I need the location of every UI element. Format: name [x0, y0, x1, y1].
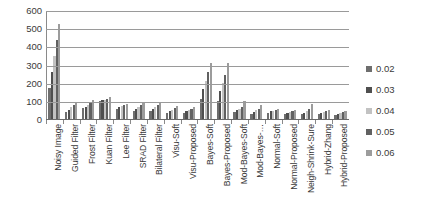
legend-item[interactable]: 0.05: [366, 121, 424, 142]
legend-swatch-icon: [366, 108, 372, 114]
bar[interactable]: [75, 102, 77, 119]
x-axis-label: Hybrid-Proposed: [340, 124, 349, 187]
x-axis-label: Frost Filter: [88, 124, 97, 164]
legend-swatch-icon: [366, 66, 372, 72]
bar[interactable]: [260, 105, 262, 119]
x-axis-label: Kuan Filter: [105, 124, 114, 164]
x-axis-label: Hybrid-Zhang: [324, 124, 333, 175]
x-label-cell: Visu-Proposed: [181, 124, 198, 216]
x-label-cell: Guided Filter: [63, 124, 80, 216]
x-axis-label: Visu-Soft: [172, 124, 181, 158]
bar[interactable]: [311, 104, 313, 119]
x-axis-label: Mod-Bayes-Soft: [240, 124, 249, 184]
bar-chart: 6005004003002001000 Noisy ImageGuided Fi…: [0, 0, 425, 216]
x-label-cell: Frost Filter: [80, 124, 97, 216]
x-axis-label: Normal-Proposed: [290, 124, 299, 190]
y-tick-label: 400: [26, 43, 42, 53]
x-label-cell: Noisy Image: [46, 124, 63, 216]
legend-item[interactable]: 0.06: [366, 142, 424, 163]
x-label-cell: Kuan Filter: [96, 124, 113, 216]
gridline: [46, 47, 349, 48]
bar[interactable]: [344, 111, 346, 119]
legend-swatch-icon: [366, 150, 372, 156]
bar[interactable]: [176, 106, 178, 119]
bar[interactable]: [58, 24, 60, 119]
x-axis-labels: Noisy ImageGuided FilterFrost FilterKuan…: [46, 124, 349, 216]
bar[interactable]: [227, 63, 229, 119]
x-label-cell: SRAD Filter: [130, 124, 147, 216]
y-axis: 6005004003002001000: [0, 0, 46, 216]
y-tick-label: 100: [26, 97, 42, 107]
x-label-cell: Bayes-Proposed: [214, 124, 231, 216]
x-label-cell: Mod-Bayes-…: [248, 124, 265, 216]
x-axis-label: Neigh-Shrink-Sure: [307, 124, 316, 193]
x-label-cell: Hybrid-Proposed: [332, 124, 349, 216]
x-axis-label: Lee Filter: [122, 124, 131, 159]
y-tick-label: 200: [26, 79, 42, 89]
y-tick-label: 0: [37, 115, 42, 125]
x-label-cell: Bilateral Filter: [147, 124, 164, 216]
legend-item[interactable]: 0.03: [366, 79, 424, 100]
y-tick-label: 600: [26, 6, 42, 16]
x-label-cell: Hybrid-Zhang: [315, 124, 332, 216]
gridline: [46, 29, 349, 30]
x-label-cell: Bayes-Soft: [197, 124, 214, 216]
legend-label: 0.05: [376, 127, 395, 137]
plot-area: [46, 11, 349, 120]
legend-item[interactable]: 0.02: [366, 58, 424, 79]
bar[interactable]: [277, 109, 279, 119]
legend-item[interactable]: 0.04: [366, 100, 424, 121]
legend-label: 0.06: [376, 148, 395, 158]
x-label-cell: Normal-Soft: [265, 124, 282, 216]
y-tick-label: 300: [26, 61, 42, 71]
gridline: [46, 102, 349, 103]
x-axis-label: Bayes-Soft: [206, 124, 215, 165]
x-axis-label: SRAD Filter: [139, 124, 148, 168]
x-label-cell: Neigh-Shrink-Sure: [298, 124, 315, 216]
legend-label: 0.02: [376, 64, 395, 74]
x-axis-label: Visu-Proposed: [189, 124, 198, 179]
x-label-cell: Visu-Soft: [164, 124, 181, 216]
legend-label: 0.04: [376, 106, 395, 116]
bar[interactable]: [210, 63, 212, 119]
bar[interactable]: [126, 104, 128, 119]
bar[interactable]: [328, 110, 330, 119]
x-label-cell: Mod-Bayes-Soft: [231, 124, 248, 216]
y-tick-label: 500: [26, 24, 42, 34]
chart-legend: 0.020.030.040.050.06: [366, 58, 424, 163]
legend-swatch-icon: [366, 87, 372, 93]
bar[interactable]: [109, 97, 111, 119]
x-axis-label: Normal-Soft: [273, 124, 282, 169]
x-axis-label: Guided Filter: [71, 124, 80, 172]
x-axis-label: Bilateral Filter: [155, 124, 164, 175]
legend-label: 0.03: [376, 85, 395, 95]
x-axis-label: Bayes-Proposed: [223, 124, 232, 186]
x-label-cell: Lee Filter: [113, 124, 130, 216]
gridline: [46, 66, 349, 67]
bar[interactable]: [159, 102, 161, 119]
bar[interactable]: [243, 101, 245, 119]
gridline: [46, 11, 349, 12]
bar[interactable]: [142, 102, 144, 119]
legend-swatch-icon: [366, 129, 372, 135]
bar[interactable]: [294, 110, 296, 119]
x-axis-label: Noisy Image: [54, 124, 63, 171]
x-label-cell: Normal-Proposed: [282, 124, 299, 216]
x-axis-label: Mod-Bayes-…: [256, 124, 265, 178]
gridline: [46, 84, 349, 85]
bar[interactable]: [193, 107, 195, 119]
